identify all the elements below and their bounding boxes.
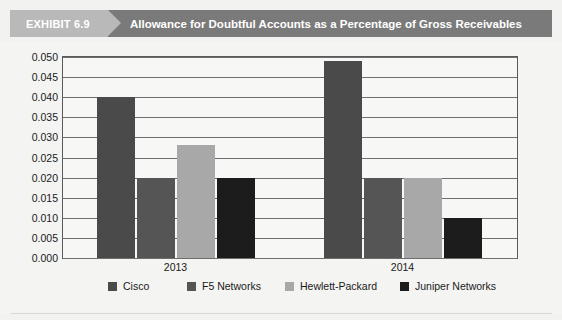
chart-container: 0.0000.0050.0100.0150.0200.0250.0300.035…: [0, 42, 562, 314]
bar: [364, 178, 402, 258]
bar: [217, 178, 255, 258]
bar: [324, 61, 362, 258]
gridline: [63, 258, 517, 259]
y-axis-tick-label: 0.000: [14, 252, 58, 264]
x-axis-tick-label: 2013: [164, 261, 187, 273]
exhibit-title: Allowance for Doubtful Accounts as a Per…: [108, 10, 552, 37]
legend-swatch-icon: [285, 282, 294, 291]
y-axis-tick-label: 0.045: [14, 71, 58, 83]
y-axis: 0.0000.0050.0100.0150.0200.0250.0300.035…: [0, 56, 58, 259]
exhibit-header: EXHIBIT 6.9 Allowance for Doubtful Accou…: [10, 10, 552, 37]
bar: [404, 178, 442, 258]
legend-swatch-icon: [187, 282, 196, 291]
y-axis-tick-label: 0.030: [14, 131, 58, 143]
legend-label: Hewlett-Packard: [300, 280, 377, 292]
bottom-divider: [10, 313, 552, 314]
y-axis-tick-label: 0.005: [14, 232, 58, 244]
legend-swatch-icon: [108, 282, 117, 291]
legend-item[interactable]: Juniper Networks: [400, 280, 496, 292]
bar: [444, 218, 482, 258]
legend-item[interactable]: Cisco: [108, 280, 149, 292]
bar: [97, 97, 135, 258]
y-axis-tick-label: 0.050: [14, 51, 58, 63]
legend-label: Juniper Networks: [415, 280, 496, 292]
y-axis-tick-label: 0.015: [14, 192, 58, 204]
y-axis-tick-label: 0.010: [14, 212, 58, 224]
x-axis-labels: 20132014: [62, 261, 518, 279]
bars-layer: [63, 57, 517, 258]
y-axis-tick-label: 0.025: [14, 152, 58, 164]
exhibit-number-tag: EXHIBIT 6.9: [10, 10, 108, 37]
plot-area: [62, 56, 518, 259]
legend-label: F5 Networks: [202, 280, 261, 292]
bar: [137, 178, 175, 258]
y-axis-tick-label: 0.035: [14, 111, 58, 123]
exhibit-figure: EXHIBIT 6.9 Allowance for Doubtful Accou…: [0, 0, 562, 320]
y-axis-tick-label: 0.020: [14, 172, 58, 184]
legend-item[interactable]: F5 Networks: [187, 280, 261, 292]
x-axis-tick-label: 2014: [391, 261, 414, 273]
bar: [177, 145, 215, 258]
y-axis-tick-label: 0.040: [14, 91, 58, 103]
chart-legend: CiscoF5 NetworksHewlett-PackardJuniper N…: [0, 280, 562, 300]
legend-item[interactable]: Hewlett-Packard: [285, 280, 377, 292]
legend-label: Cisco: [123, 280, 149, 292]
legend-swatch-icon: [400, 282, 409, 291]
